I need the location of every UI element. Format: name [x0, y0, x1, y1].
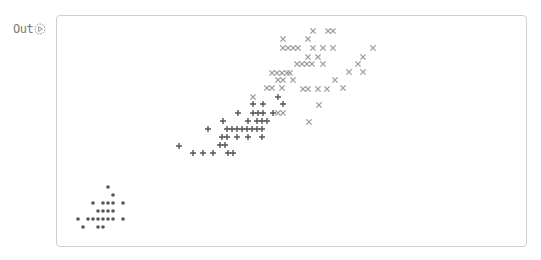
- data-point: [275, 94, 281, 100]
- data-point: [305, 54, 310, 59]
- series-x: [250, 28, 375, 124]
- data-point: [259, 134, 265, 140]
- data-point: [316, 102, 321, 107]
- data-point: [309, 61, 314, 66]
- data-point: [275, 110, 280, 115]
- data-point: [280, 77, 285, 82]
- data-point: [280, 36, 285, 41]
- data-point: [111, 209, 115, 213]
- data-point: [315, 86, 320, 91]
- data-point: [259, 126, 265, 132]
- data-point: [274, 70, 279, 75]
- data-point: [96, 217, 100, 221]
- data-point: [176, 143, 182, 149]
- data-point: [279, 70, 284, 75]
- data-point: [264, 85, 269, 90]
- scatter-plot: [0, 0, 541, 260]
- data-point: [234, 134, 240, 140]
- data-point: [315, 54, 320, 59]
- data-point: [101, 225, 105, 229]
- data-point: [330, 28, 335, 33]
- data-point: [190, 150, 196, 156]
- data-point: [310, 45, 315, 50]
- data-point: [295, 45, 300, 50]
- data-point: [264, 118, 270, 124]
- data-point: [111, 193, 115, 197]
- data-point: [360, 69, 365, 74]
- data-point: [346, 69, 351, 74]
- data-point: [269, 85, 274, 90]
- data-point: [280, 110, 285, 115]
- data-point: [250, 101, 256, 107]
- data-point: [101, 217, 105, 221]
- data-point: [285, 45, 290, 50]
- data-point: [222, 142, 228, 148]
- data-point: [250, 94, 255, 99]
- data-point: [306, 119, 311, 124]
- data-point: [280, 101, 286, 107]
- data-point: [111, 217, 115, 221]
- data-point: [245, 118, 251, 124]
- series-plus: [176, 94, 286, 156]
- data-point: [121, 201, 125, 205]
- data-point: [91, 201, 95, 205]
- data-point: [320, 61, 325, 66]
- series-dot: [76, 185, 125, 229]
- data-point: [210, 150, 216, 156]
- data-point: [106, 201, 110, 205]
- data-point: [101, 209, 105, 213]
- data-point: [305, 86, 310, 91]
- data-point: [220, 118, 226, 124]
- data-point: [294, 61, 299, 66]
- data-point: [91, 217, 95, 221]
- data-point: [279, 85, 284, 90]
- data-point: [121, 217, 125, 221]
- data-point: [330, 45, 335, 50]
- data-point: [275, 77, 280, 82]
- data-point: [200, 150, 206, 156]
- data-point: [355, 61, 360, 66]
- data-point: [260, 101, 266, 107]
- data-point: [324, 86, 329, 91]
- data-point: [106, 209, 110, 213]
- data-point: [235, 110, 241, 116]
- data-point: [290, 77, 295, 82]
- data-point: [300, 86, 305, 91]
- data-point: [280, 45, 285, 50]
- data-point: [205, 126, 211, 132]
- data-point: [101, 201, 105, 205]
- data-point: [76, 217, 80, 221]
- data-point: [81, 225, 85, 229]
- data-point: [86, 217, 90, 221]
- data-point: [325, 28, 330, 33]
- data-point: [299, 61, 304, 66]
- data-point: [305, 36, 310, 41]
- data-point: [96, 225, 100, 229]
- data-point: [96, 209, 100, 213]
- data-point: [360, 54, 365, 59]
- data-point: [230, 150, 236, 156]
- data-point: [224, 134, 230, 140]
- data-point: [106, 185, 110, 189]
- data-point: [260, 110, 266, 116]
- data-point: [269, 70, 274, 75]
- data-point: [310, 28, 315, 33]
- data-point: [332, 77, 337, 82]
- data-point: [304, 61, 309, 66]
- data-point: [340, 85, 345, 90]
- data-point: [370, 45, 375, 50]
- data-point: [245, 134, 251, 140]
- data-point: [287, 70, 292, 75]
- data-point: [290, 45, 295, 50]
- data-point: [106, 217, 110, 221]
- data-point: [111, 201, 115, 205]
- data-point: [320, 45, 325, 50]
